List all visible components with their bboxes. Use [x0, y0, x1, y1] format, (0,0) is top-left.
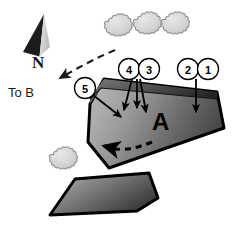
- figure-canvas: N To B A: [0, 0, 240, 233]
- north-label: N: [32, 53, 45, 72]
- callout-4[interactable]: 4: [119, 59, 140, 80]
- callout-2[interactable]: 2: [178, 59, 199, 80]
- callout-5[interactable]: 5: [75, 78, 96, 99]
- callout-1[interactable]: 1: [198, 59, 219, 80]
- callout-3[interactable]: 3: [139, 59, 160, 80]
- callout-number: 3: [146, 64, 152, 76]
- callout-number: 4: [126, 64, 133, 76]
- callout-number: 1: [205, 64, 211, 76]
- callout-number: 2: [185, 64, 191, 76]
- landslide-figure: N To B A: [0, 0, 240, 233]
- to-b-label: To B: [8, 85, 34, 100]
- callout-number: 5: [82, 83, 88, 95]
- block-a-label: A: [152, 108, 169, 135]
